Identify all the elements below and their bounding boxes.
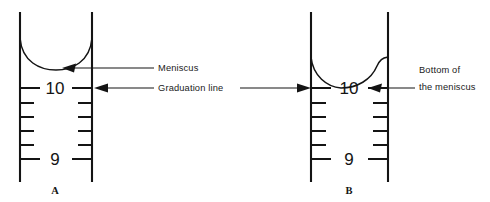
diagram-canvas: 10 9 A [0,0,490,202]
cylinder-a-label-10: 10 [46,79,65,98]
graduation-line-arrowhead-right [297,84,311,93]
callout-bottom-of-meniscus [368,84,415,93]
cylinder-b-label-9: 9 [344,150,353,169]
callout-label-the-meniscus: the meniscus [419,82,476,92]
callout-label-graduation-line: Graduation line [158,83,223,93]
meniscus-diagram: 10 9 A [0,0,490,202]
cylinder-a: 10 9 A [20,12,92,196]
cylinder-b: 10 9 B [311,12,388,196]
cylinder-a-meniscus-curve [20,38,92,70]
meniscus-arrowhead [62,64,76,73]
cylinder-a-label-9: 9 [50,150,59,169]
graduation-line-arrowhead-left [94,84,108,93]
callout-label-bottom-of: Bottom of [419,65,460,75]
panel-b-letter: B [345,185,352,196]
bottom-meniscus-arrowhead [368,84,382,93]
cylinder-b-label-10: 10 [340,79,359,98]
panel-a-letter: A [51,185,59,196]
callout-label-meniscus: Meniscus [158,63,199,73]
